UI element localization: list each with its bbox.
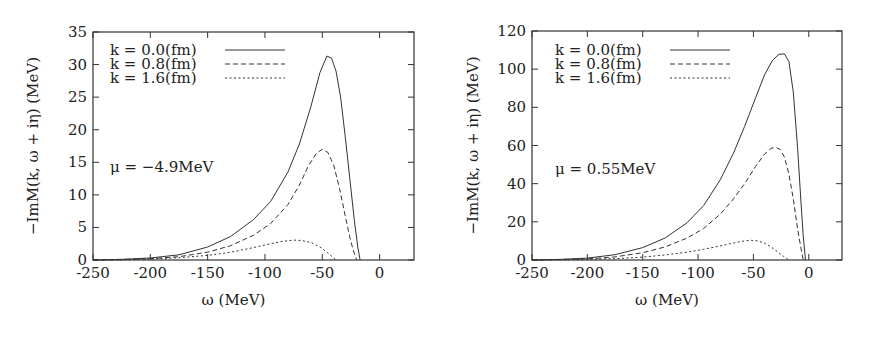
x-tick-label: -100 <box>681 264 715 282</box>
y-tick-label: 5 <box>77 218 87 236</box>
y-tick-label: 15 <box>68 153 87 171</box>
y-tick-label: 35 <box>68 23 87 41</box>
chart-panel-2: -250-200-150-100-500020406080100120ω (Me… <box>464 22 842 309</box>
y-axis-label: −ImM(k, ω + iη) (MeV) <box>464 56 482 234</box>
y-tick-label: 30 <box>68 56 87 74</box>
y-tick-label: 80 <box>507 98 526 116</box>
y-tick-label: 60 <box>507 137 526 155</box>
legend-label: k = 1.6(fm) <box>555 69 642 87</box>
figure: -250-200-150-100-50005101520253035ω (MeV… <box>0 0 870 340</box>
y-tick-label: 0 <box>516 251 526 269</box>
annotation-mu: μ = −4.9MeV <box>110 158 215 176</box>
x-tick-label: -150 <box>191 264 225 282</box>
x-axis-label: ω (MeV) <box>202 291 266 309</box>
x-axis-label: ω (MeV) <box>635 291 699 309</box>
y-axis-label: −ImM(k, ω + iη) (MeV) <box>24 57 42 235</box>
y-tick-label: 10 <box>68 186 87 204</box>
x-tick-label: 0 <box>375 264 385 282</box>
x-tick-label: -100 <box>248 264 282 282</box>
x-tick-label: -50 <box>741 264 765 282</box>
y-tick-label: 120 <box>497 22 526 40</box>
y-tick-label: 20 <box>507 213 526 231</box>
y-tick-label: 100 <box>497 60 526 78</box>
chart-panel-1: -250-200-150-100-50005101520253035ω (MeV… <box>24 23 414 309</box>
y-tick-label: 25 <box>68 88 87 106</box>
x-tick-label: 0 <box>804 264 814 282</box>
y-tick-label: 0 <box>77 251 87 269</box>
y-tick-label: 20 <box>68 121 87 139</box>
legend-label: k = 1.6(fm) <box>110 69 197 87</box>
x-tick-label: -200 <box>133 264 167 282</box>
y-tick-label: 40 <box>507 175 526 193</box>
x-tick-label: -50 <box>310 264 334 282</box>
x-tick-label: -200 <box>571 264 605 282</box>
annotation-mu: μ = 0.55MeV <box>555 160 656 178</box>
series-line-dotted <box>532 240 789 260</box>
x-tick-label: -150 <box>626 264 660 282</box>
